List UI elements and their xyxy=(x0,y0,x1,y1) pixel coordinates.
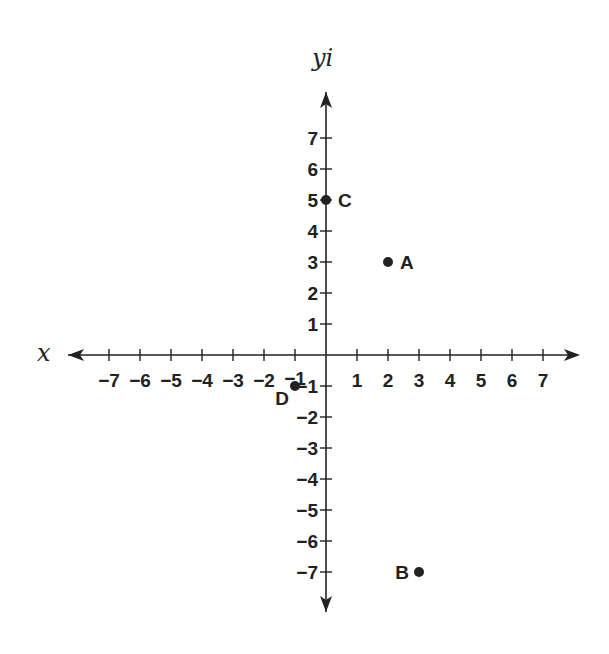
x-tick-label: −2 xyxy=(253,370,275,391)
point-d xyxy=(290,381,300,391)
y-axis-title: yi xyxy=(311,44,333,72)
x-tick-label: 1 xyxy=(352,370,363,391)
point-b xyxy=(414,567,424,577)
axes xyxy=(68,92,578,612)
y-tick-label: −3 xyxy=(296,438,318,459)
x-axis-title: x xyxy=(37,339,51,367)
x-tick-label: 4 xyxy=(445,370,456,391)
data-points: ABCD xyxy=(275,190,424,583)
complex-plane-plot: −7−6−5−4−3−2−11234567−7−6−5−4−3−2−112345… xyxy=(0,0,609,654)
x-tick-label: 7 xyxy=(538,370,549,391)
point-c xyxy=(321,195,331,205)
y-tick-label: 1 xyxy=(307,314,318,335)
y-tick-label: −5 xyxy=(296,500,318,521)
x-tick-label: −4 xyxy=(191,370,213,391)
x-tick-label: −5 xyxy=(160,370,182,391)
y-tick-label: 2 xyxy=(307,283,318,304)
y-tick-label: −2 xyxy=(296,407,318,428)
x-tick-label: −3 xyxy=(222,370,244,391)
y-tick-label: 6 xyxy=(307,159,318,180)
point-label-b: B xyxy=(395,562,409,583)
y-tick-label: 3 xyxy=(307,252,318,273)
x-tick-label: −6 xyxy=(129,370,151,391)
y-tick-label: −7 xyxy=(296,562,318,583)
y-tick-label: 7 xyxy=(307,128,318,149)
point-a xyxy=(383,257,393,267)
x-tick-label: 2 xyxy=(383,370,394,391)
y-tick-label: −6 xyxy=(296,531,318,552)
point-label-d: D xyxy=(275,388,289,409)
point-label-a: A xyxy=(400,252,414,273)
x-tick-label: 6 xyxy=(507,370,518,391)
y-tick-label: −4 xyxy=(296,469,318,490)
x-tick-label: 5 xyxy=(476,370,487,391)
x-tick-label: −7 xyxy=(98,370,120,391)
x-tick-label: 3 xyxy=(414,370,425,391)
y-tick-label: 4 xyxy=(307,221,318,242)
point-label-c: C xyxy=(338,190,352,211)
y-tick-label: 5 xyxy=(307,190,318,211)
